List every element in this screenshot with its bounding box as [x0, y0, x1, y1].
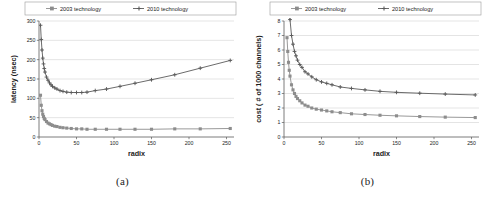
- y-tick-label: 300: [26, 18, 35, 24]
- y-tick-label: 100: [26, 95, 35, 101]
- cross-marker: [39, 38, 43, 42]
- square-marker: [289, 83, 292, 86]
- series-line: [40, 95, 230, 129]
- cross-marker: [104, 87, 108, 91]
- y-tick-label: 7: [277, 32, 280, 38]
- square-marker: [363, 113, 366, 116]
- cross-marker: [42, 67, 46, 71]
- x-tick-label: 150: [392, 140, 401, 146]
- cross-marker: [338, 85, 342, 89]
- cross-marker: [417, 91, 421, 95]
- square-marker: [55, 125, 58, 128]
- square-marker: [378, 114, 381, 117]
- y-tick-label: 5: [277, 61, 280, 67]
- cross-marker: [295, 58, 299, 62]
- square-marker: [300, 101, 303, 104]
- square-marker: [306, 105, 309, 108]
- y-tick-label: 200: [26, 57, 35, 63]
- square-marker: [285, 36, 288, 39]
- y-tick-label: 1: [277, 119, 280, 125]
- panel-a-caption: (a): [116, 175, 129, 187]
- x-tick-label: 50: [73, 140, 79, 146]
- square-marker: [287, 69, 290, 72]
- cross-marker: [443, 92, 447, 96]
- square-marker: [65, 127, 68, 130]
- square-marker: [74, 127, 77, 130]
- cross-marker: [291, 42, 295, 46]
- legend-label: 2010 technology: [147, 6, 188, 12]
- square-marker: [104, 128, 107, 131]
- cross-marker: [64, 90, 68, 94]
- cross-marker: [330, 83, 334, 87]
- cross-marker: [319, 80, 323, 84]
- square-marker: [295, 7, 299, 11]
- square-marker: [338, 111, 341, 114]
- series-line: [287, 38, 475, 118]
- cross-marker: [93, 89, 97, 93]
- legend-label: 2010 technology: [392, 6, 433, 12]
- square-marker: [38, 94, 41, 97]
- y-tick-label: 3: [277, 90, 280, 96]
- square-marker: [310, 106, 313, 109]
- cross-marker: [228, 59, 232, 63]
- legend-label: 2003 technology: [305, 6, 346, 12]
- gridlines: [39, 21, 234, 118]
- square-marker: [473, 116, 476, 119]
- square-marker: [149, 128, 152, 131]
- cross-marker: [118, 84, 122, 88]
- square-marker: [418, 115, 421, 118]
- square-marker: [85, 128, 88, 131]
- square-marker: [118, 128, 121, 131]
- cross-marker: [363, 88, 367, 92]
- cross-marker: [43, 70, 47, 74]
- square-marker: [291, 88, 294, 91]
- x-tick-label: 50: [318, 140, 324, 146]
- square-marker: [69, 127, 72, 130]
- series-2010-technology: [38, 23, 232, 94]
- chart-panel-b: 2003 technology2010 technology0123456780…: [245, 0, 490, 204]
- y-tick-label: 250: [26, 37, 35, 43]
- x-axis-ticks: 050100150200250: [282, 137, 475, 146]
- cross-marker: [79, 91, 83, 95]
- y-tick-label: 0: [277, 134, 280, 140]
- cross-marker: [85, 90, 89, 94]
- square-marker: [286, 61, 289, 64]
- x-tick-label: 0: [282, 140, 285, 146]
- y-tick-label: 2: [277, 105, 280, 111]
- y-tick-label: 50: [29, 115, 35, 121]
- cross-marker: [40, 48, 44, 52]
- square-marker: [93, 128, 96, 131]
- square-marker: [349, 112, 352, 115]
- square-marker: [40, 109, 43, 112]
- square-marker: [292, 92, 295, 95]
- cross-marker: [69, 91, 73, 95]
- chart-panel-a: 2003 technology2010 technology0501001502…: [0, 0, 245, 204]
- y-tick-label: 150: [26, 76, 35, 82]
- square-marker: [286, 50, 289, 53]
- cross-marker: [198, 66, 202, 70]
- square-marker: [61, 126, 64, 129]
- square-marker: [39, 104, 42, 107]
- square-marker: [394, 114, 397, 117]
- square-marker: [58, 126, 61, 129]
- cross-marker: [61, 89, 65, 93]
- cross-marker: [294, 54, 298, 58]
- y-axis-title: cost ( # of 1000 channels): [254, 35, 263, 123]
- x-tick-label: 250: [222, 140, 231, 146]
- cross-marker: [289, 34, 293, 38]
- x-tick-label: 250: [467, 140, 476, 146]
- square-marker: [314, 108, 317, 111]
- x-axis-ticks: 050100150200250: [37, 137, 230, 146]
- x-tick-label: 100: [354, 140, 363, 146]
- cross-marker: [172, 73, 176, 77]
- cross-marker: [41, 62, 45, 66]
- cross-marker: [149, 78, 153, 82]
- y-axis-ticks: 050100150200250300: [26, 18, 38, 140]
- panel-b-caption: (b): [361, 175, 374, 187]
- square-marker: [319, 108, 322, 111]
- cross-marker: [74, 91, 78, 95]
- chart-a-box: 2003 technology2010 technology0501001502…: [7, 0, 239, 172]
- x-tick-label: 200: [429, 140, 438, 146]
- cross-marker: [133, 81, 137, 85]
- latency-vs-radix-chart: 2003 technology2010 technology0501001502…: [7, 0, 239, 172]
